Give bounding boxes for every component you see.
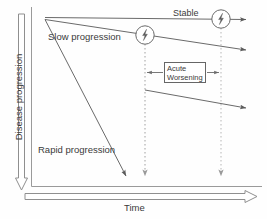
label-rapid-progression: Rapid progression: [38, 145, 115, 155]
trajectory-post-event-decline: [145, 90, 246, 108]
disease-progression-figure: Stable Slow progression Rapid progressio…: [0, 0, 267, 219]
acute-worsening-text: Acute Worsening: [167, 65, 203, 82]
event-marker-stable: [212, 10, 230, 28]
event-marker-slow: [136, 26, 154, 44]
label-slow-progression: Slow progression: [48, 32, 121, 42]
acute-worsening-line2: Worsening: [167, 73, 203, 82]
figure-canvas: [0, 0, 267, 219]
x-axis-arrow: [25, 191, 257, 203]
y-axis-label: Disease progression: [14, 47, 24, 147]
label-stable: Stable: [173, 9, 199, 18]
acute-worsening-box: Acute Worsening: [164, 62, 206, 83]
x-axis-label: Time: [124, 203, 145, 213]
